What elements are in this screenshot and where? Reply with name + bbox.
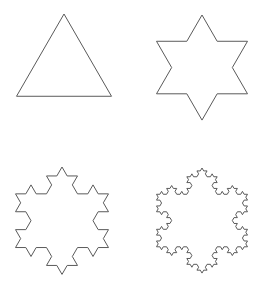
koch-iteration-2: [16, 167, 109, 274]
koch-iteration-0: [17, 14, 112, 96]
figures-group: [16, 14, 248, 274]
koch-iteration-1: [157, 15, 248, 120]
koch-iteration-3: [157, 168, 248, 273]
koch-snowflake-diagram: [0, 0, 265, 291]
